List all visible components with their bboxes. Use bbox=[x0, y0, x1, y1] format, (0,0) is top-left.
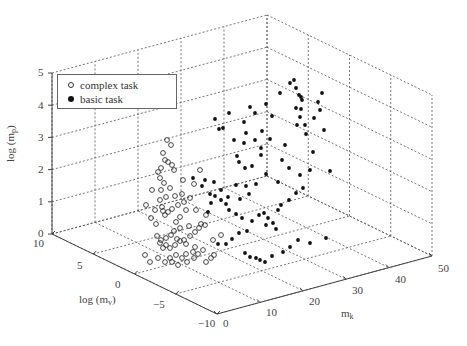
complex-task-point bbox=[159, 238, 164, 243]
complex-task-point bbox=[173, 243, 178, 248]
basic-task-point bbox=[288, 81, 292, 85]
x-tick-0: 0 bbox=[223, 318, 229, 329]
basic-task-point bbox=[299, 107, 303, 111]
basic-task-point bbox=[234, 183, 238, 187]
basic-task-point bbox=[281, 250, 285, 254]
basic-task-point bbox=[219, 198, 223, 202]
z-tick-2: 2 bbox=[38, 164, 44, 175]
basic-task-point bbox=[200, 184, 204, 188]
basic-task-point bbox=[213, 117, 217, 121]
complex-task-point bbox=[143, 253, 148, 258]
basic-task-point bbox=[287, 198, 291, 202]
basic-task-point bbox=[298, 115, 302, 119]
legend-label-basic: basic task bbox=[80, 93, 123, 105]
basic-task-point bbox=[232, 138, 236, 142]
complex-task-point bbox=[180, 256, 185, 261]
basic-task-point bbox=[295, 123, 299, 127]
basic-task-point bbox=[264, 102, 268, 106]
complex-task-point bbox=[178, 215, 183, 220]
complex-task-point bbox=[174, 220, 179, 225]
basic-task-point bbox=[212, 180, 216, 184]
basic-task-point bbox=[217, 127, 221, 131]
basic-task-point bbox=[208, 192, 212, 196]
basic-task-point bbox=[304, 132, 308, 136]
x-tick-10: 10 bbox=[266, 307, 277, 318]
complex-task-point bbox=[159, 188, 164, 193]
basic-task-point bbox=[288, 245, 292, 249]
complex-task-point bbox=[187, 224, 192, 229]
complex-task-point bbox=[176, 203, 181, 208]
basic-task-point bbox=[268, 137, 272, 141]
complex-task-point bbox=[173, 194, 178, 199]
basic-task-point bbox=[191, 176, 195, 180]
complex-task-point bbox=[165, 138, 170, 143]
complex-task-point bbox=[174, 253, 179, 258]
3d-scatter-plot bbox=[0, 0, 467, 346]
basic-task-point bbox=[227, 111, 231, 115]
basic-task-point bbox=[292, 78, 296, 82]
complex-task-point bbox=[156, 256, 161, 261]
z-axis-label: log (mp) bbox=[4, 125, 18, 162]
basic-task-point bbox=[234, 212, 238, 216]
x-tick-40: 40 bbox=[395, 274, 406, 285]
basic-task-point bbox=[320, 91, 324, 95]
complex-task-point bbox=[150, 188, 155, 193]
complex-task-point bbox=[194, 208, 199, 213]
complex-task-point bbox=[188, 196, 193, 201]
z-tick-5: 5 bbox=[38, 67, 44, 78]
complex-task-point bbox=[219, 233, 224, 238]
y-axis-label: log (mv) bbox=[79, 294, 116, 307]
basic-task-point bbox=[254, 256, 258, 260]
basic-task-point bbox=[260, 129, 264, 133]
complex-task-point bbox=[164, 195, 169, 200]
basic-task-point bbox=[250, 164, 254, 168]
complex-task-point bbox=[182, 200, 187, 205]
complex-task-point bbox=[154, 222, 159, 227]
basic-task-point bbox=[206, 210, 210, 214]
basic-task-point bbox=[248, 255, 252, 259]
basic-task-point bbox=[287, 166, 291, 170]
basic-task-point bbox=[244, 131, 248, 135]
basic-task-point bbox=[242, 120, 246, 124]
complex-task-point bbox=[201, 248, 206, 253]
basic-task-point bbox=[283, 143, 287, 147]
basic-task-point bbox=[324, 236, 328, 240]
basic-task-point bbox=[253, 138, 257, 142]
z-tick-4: 4 bbox=[38, 100, 44, 111]
complex-task-point bbox=[158, 241, 163, 246]
basic-task-point bbox=[253, 111, 257, 115]
complex-task-point bbox=[164, 236, 169, 241]
basic-task-point bbox=[276, 208, 280, 212]
basic-task-point bbox=[271, 221, 275, 225]
basic-task-point bbox=[243, 251, 247, 255]
legend-entry-complex: complex task bbox=[68, 79, 138, 91]
legend-label-complex: complex task bbox=[80, 79, 138, 91]
basic-task-point bbox=[259, 146, 263, 150]
y-tick-0: 0 bbox=[115, 279, 121, 290]
basic-task-point bbox=[270, 114, 274, 118]
complex-task-point bbox=[158, 176, 163, 181]
basic-task-point bbox=[248, 105, 252, 109]
complex-task-point bbox=[153, 208, 158, 213]
basic-task-point bbox=[279, 203, 283, 207]
series-basic-task bbox=[191, 78, 332, 264]
basic-task-point bbox=[276, 180, 280, 184]
complex-task-point bbox=[211, 238, 216, 243]
basic-task-point bbox=[278, 91, 282, 95]
basic-task-point bbox=[238, 197, 242, 201]
basic-task-point bbox=[308, 168, 312, 172]
basic-task-point bbox=[250, 219, 254, 223]
basic-task-point bbox=[221, 126, 225, 130]
complex-task-point bbox=[191, 250, 196, 255]
basic-task-point bbox=[294, 106, 298, 110]
complex-task-point bbox=[159, 166, 164, 171]
basic-task-point bbox=[328, 169, 332, 173]
open-circle-marker-icon bbox=[68, 82, 74, 88]
complex-task-point bbox=[168, 186, 173, 191]
complex-task-point bbox=[184, 242, 189, 247]
legend: complex task basic task bbox=[57, 74, 177, 109]
complex-task-point bbox=[163, 213, 168, 218]
axis-lines bbox=[48, 73, 432, 314]
basic-task-point bbox=[259, 153, 263, 157]
complex-task-point bbox=[198, 168, 203, 173]
